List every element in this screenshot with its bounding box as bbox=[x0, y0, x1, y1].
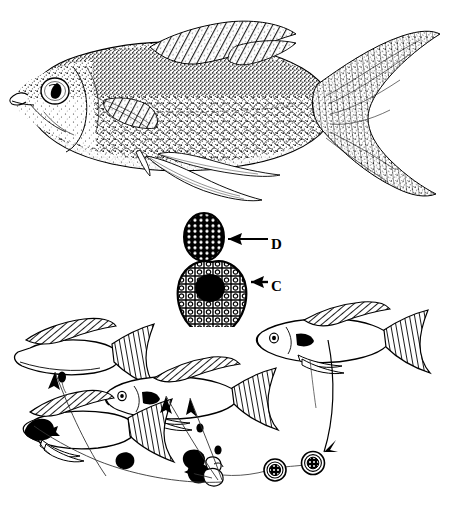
stage-chain bbox=[116, 450, 325, 486]
cyst-dark-1 bbox=[116, 452, 135, 469]
spore-ringed-1 bbox=[264, 459, 286, 481]
stippled-fish-specimen-illustration bbox=[0, 0, 466, 205]
trophont-nucleus bbox=[195, 274, 225, 302]
specimen-svg bbox=[0, 0, 466, 205]
label-c: C bbox=[271, 279, 282, 294]
leader-arrow-c bbox=[251, 276, 268, 288]
lifecycle-svg bbox=[0, 300, 466, 515]
parasite-life-cycle-diagram bbox=[0, 300, 466, 515]
infection-spot bbox=[196, 423, 203, 432]
leader-arrow-d bbox=[228, 233, 268, 245]
fish-eye bbox=[41, 78, 69, 104]
label-d: D bbox=[271, 237, 282, 252]
caudal-fin bbox=[300, 20, 466, 205]
spore-ringed-2 bbox=[302, 452, 325, 475]
scientific-figure: D C bbox=[0, 0, 466, 515]
fish-right bbox=[256, 302, 430, 374]
list-item bbox=[256, 302, 430, 374]
infection-spot bbox=[214, 445, 221, 454]
infection-spot bbox=[58, 372, 66, 383]
